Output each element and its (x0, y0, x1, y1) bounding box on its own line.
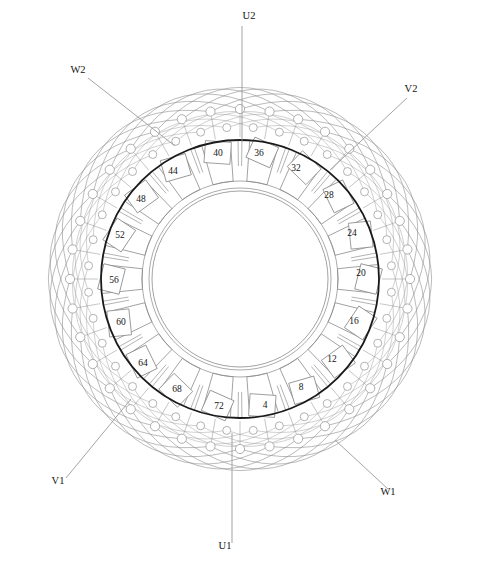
slot-bottom-arc (159, 334, 172, 350)
tooth-edge (103, 297, 129, 301)
slot-bottom-arc (159, 209, 172, 225)
slot-12: 12 (327, 354, 337, 364)
conductor-circle-inner (361, 362, 369, 370)
slot-bottom-arc (308, 209, 321, 225)
conductor-circle-outer (403, 304, 412, 313)
conductor-circle-outer (177, 115, 186, 124)
slot-wall (335, 303, 374, 313)
conductor-lead-stub (265, 117, 269, 140)
conductor-circle-inner (387, 288, 395, 296)
tooth-edge (277, 148, 286, 173)
conductor-circle-outer (294, 115, 303, 124)
conductor-lead-stub (158, 136, 170, 156)
inner-bore-circle (152, 191, 328, 367)
conductor-circle-inner (111, 362, 119, 370)
terminal-w1-leader (335, 440, 388, 489)
conductor-lead-stub (331, 388, 346, 406)
slot-56: 56 (109, 275, 119, 285)
conductor-lead-stub (211, 117, 215, 140)
conductor-circle-inner (323, 400, 331, 408)
tooth-edge (280, 385, 289, 409)
slot-4: 4 (263, 400, 268, 410)
conductor-circle-inner (172, 413, 180, 421)
slot-bottom-arc (308, 334, 321, 350)
conductor-circle-outer (150, 422, 159, 431)
terminal-v2-leader (330, 98, 407, 170)
slot-8: 8 (299, 382, 304, 392)
conductor-circle-outer (177, 434, 186, 443)
slot-28: 28 (324, 190, 334, 200)
conductor-circle-outer (405, 274, 414, 283)
conductor-lead-stub (134, 153, 149, 171)
conductor-circle-inner (223, 426, 231, 434)
slot-bottom-arc (145, 303, 152, 322)
slot-64: 64 (138, 358, 148, 368)
conductor-circle-outer (366, 384, 375, 393)
conductor-circle-outer (320, 422, 329, 431)
slot-40: 40 (213, 148, 223, 158)
conductor-circle-outer (206, 442, 215, 451)
tooth-edge (351, 253, 377, 258)
conductor-circle-inner (129, 168, 137, 176)
slot-48: 48 (136, 194, 146, 204)
slot-16: 16 (349, 316, 359, 326)
slot-bottom-arc (145, 236, 152, 255)
conductor-lead-stub (158, 402, 170, 422)
conductor-lead-stub (211, 419, 215, 442)
conductor-circle-outer (88, 189, 97, 198)
conductor-circle-inner (149, 150, 157, 158)
conductor-circle-inner (383, 236, 391, 244)
conductor-lead-stub (311, 402, 323, 422)
conductor-circle-outer (105, 384, 114, 393)
tooth-edge (191, 385, 200, 409)
conductor-lead-stub (78, 304, 101, 308)
terminal-v1-leader (66, 399, 131, 478)
conductor-circle-inner (249, 426, 257, 434)
conductor-circle-inner (275, 422, 283, 430)
conductor-circle-inner (129, 382, 137, 390)
terminal-v2: V2 (405, 83, 418, 94)
terminal-w2: W2 (70, 64, 85, 75)
conductor-circle-outer (366, 165, 375, 174)
conductor-circle-outer (265, 107, 274, 116)
conductor-circle-inner (85, 288, 93, 296)
slot-36: 36 (254, 148, 264, 158)
conductor-lead-stub (380, 304, 403, 308)
conductor-circle-outer (395, 333, 404, 342)
conductor-circle-inner (111, 188, 119, 196)
conductor-lead-stub (380, 250, 403, 254)
conductor-circle-inner (223, 124, 231, 132)
core-band-circle (142, 181, 338, 377)
conductor-circle-inner (275, 128, 283, 136)
slot-bottom-arc (328, 303, 335, 322)
conductor-circle-outer (235, 104, 244, 113)
terminal-v1: V1 (52, 475, 65, 486)
conductor-circle-outer (150, 127, 159, 136)
slot-52: 52 (115, 230, 125, 240)
conductor-circle-inner (300, 137, 308, 145)
tooth-edge (103, 257, 129, 261)
conductor-circle-outer (206, 107, 215, 116)
conductor-circle-outer (126, 405, 135, 414)
slot-wall (106, 246, 145, 256)
overhang-arc (110, 388, 270, 464)
tooth-edge (352, 297, 378, 301)
conductor-circle-outer (65, 274, 74, 283)
stator-core-layer (98, 137, 383, 421)
conductor-circle-inner (98, 339, 106, 347)
conductor-circle-outer (235, 444, 244, 453)
conductor-lead-stub (363, 197, 383, 209)
tooth-edge (280, 149, 289, 173)
conductor-circle-inner (249, 124, 257, 132)
conductor-circle-inner (343, 382, 351, 390)
conductor-lead-stub (311, 136, 323, 156)
tooth-edge (194, 386, 203, 411)
conductor-lead-stub (265, 419, 269, 442)
slot-20: 20 (356, 268, 366, 278)
conductor-lead-stub (78, 250, 101, 254)
conductor-circle-inner (383, 314, 391, 322)
conductor-circle-outer (76, 333, 85, 342)
conductor-circle-inner (197, 422, 205, 430)
slot-32: 32 (291, 163, 301, 173)
conductor-circle-outer (68, 304, 77, 313)
